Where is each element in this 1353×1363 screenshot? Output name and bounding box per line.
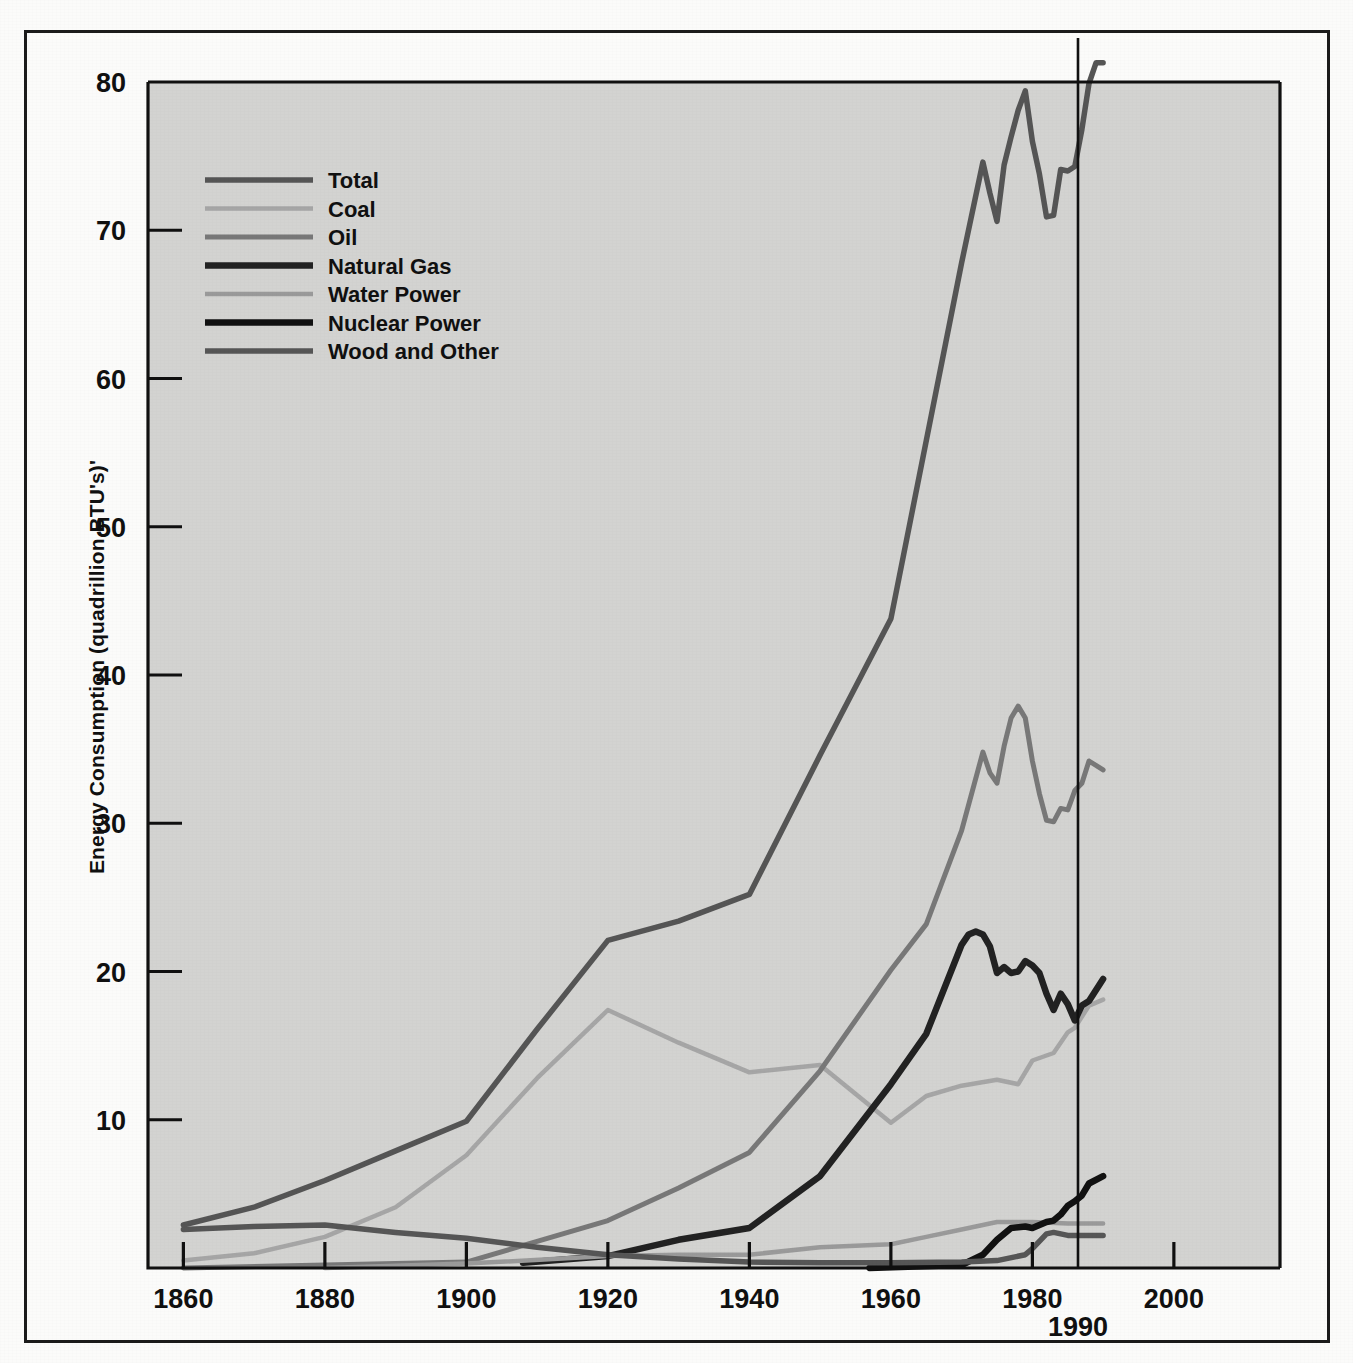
legend-label-oil: Oil bbox=[328, 225, 357, 250]
figure-root: Energy Consumption (quadrillion BTU's)' … bbox=[0, 0, 1353, 1363]
y-tick-label-80: 80 bbox=[96, 68, 126, 98]
plot-background bbox=[148, 82, 1280, 1268]
legend-label-nuclear-power: Nuclear Power bbox=[328, 311, 481, 336]
legend-label-wood-and-other: Wood and Other bbox=[328, 339, 499, 364]
y-tick-label-20: 20 bbox=[96, 958, 126, 988]
legend-label-water-power: Water Power bbox=[328, 282, 461, 307]
chart-plot-area: 1020304050607080 18601880190019201940196… bbox=[0, 0, 1353, 1363]
y-tick-label-40: 40 bbox=[96, 661, 126, 691]
x-tick-label-1940: 1940 bbox=[719, 1284, 779, 1314]
legend-label-coal: Coal bbox=[328, 197, 376, 222]
y-tick-label-10: 10 bbox=[96, 1106, 126, 1136]
x-tick-label-1880: 1880 bbox=[295, 1284, 355, 1314]
x-tick-label-1980: 1980 bbox=[1002, 1284, 1062, 1314]
y-tick-label-30: 30 bbox=[96, 809, 126, 839]
y-tick-label-50: 50 bbox=[96, 513, 126, 543]
year-marker-label: 1990 bbox=[1048, 1312, 1108, 1342]
x-tick-label-1860: 1860 bbox=[153, 1284, 213, 1314]
x-tick-label-1920: 1920 bbox=[578, 1284, 638, 1314]
x-tick-label-1960: 1960 bbox=[861, 1284, 921, 1314]
legend-label-natural-gas: Natural Gas bbox=[328, 254, 452, 279]
x-tick-label-1900: 1900 bbox=[436, 1284, 496, 1314]
y-tick-label-70: 70 bbox=[96, 216, 126, 246]
x-tick-label-2000: 2000 bbox=[1144, 1284, 1204, 1314]
y-tick-label-60: 60 bbox=[96, 365, 126, 395]
line-chart: 1020304050607080 18601880190019201940196… bbox=[0, 0, 1353, 1363]
legend-label-total: Total bbox=[328, 168, 379, 193]
